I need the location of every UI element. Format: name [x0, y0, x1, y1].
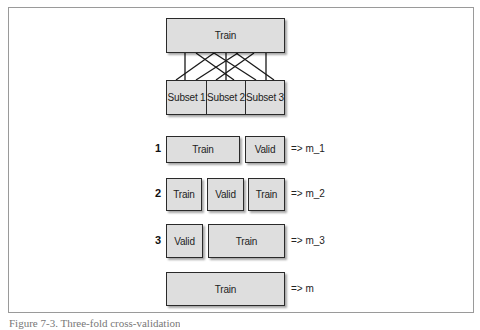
subset-3-label: Subset 3	[246, 92, 284, 103]
fold-1-number: 1	[155, 142, 161, 154]
figure-caption: Figure 7-3. Three-fold cross-validation	[9, 317, 180, 330]
fold-1-valid-box: Valid	[245, 136, 285, 163]
subset-2-box: Subset 2	[206, 80, 246, 115]
fold-2-number: 2	[155, 187, 161, 199]
fold-3-number: 3	[155, 234, 161, 246]
final-train-box: Train	[166, 272, 285, 306]
subset-1-label: Subset 1	[168, 92, 206, 103]
subset-2-label: Subset 2	[207, 92, 245, 103]
fold-3-train-label: Train	[236, 236, 257, 247]
fold-2-result: => m_2	[291, 188, 325, 199]
fold-2-valid-label: Valid	[215, 189, 236, 200]
final-train-label: Train	[215, 284, 236, 295]
subsets-group: Subset 1 Subset 2 Subset 3	[166, 80, 285, 115]
fold-2-train-label-b: Train	[256, 189, 277, 200]
full-train-label: Train	[215, 30, 236, 41]
full-train-box: Train	[166, 18, 285, 53]
fold-2-valid-box: Valid	[207, 178, 244, 211]
fold-3-result: => m_3	[291, 235, 325, 246]
fold-1-valid-label: Valid	[255, 144, 276, 155]
fold-3-valid-box: Valid	[166, 224, 203, 258]
subset-3-box: Subset 3	[245, 80, 285, 115]
fold-1-train-label: Train	[192, 144, 213, 155]
fold-2-train-box-b: Train	[248, 178, 285, 211]
fold-1-train-box: Train	[166, 136, 240, 163]
subset-1-box: Subset 1	[166, 80, 207, 115]
final-result: => m	[291, 283, 314, 294]
fold-3-valid-label: Valid	[174, 236, 195, 247]
fold-2-train-label-a: Train	[173, 189, 194, 200]
fold-3-train-box: Train	[208, 224, 285, 258]
fold-2-train-box-a: Train	[166, 178, 202, 211]
fold-1-result: => m_1	[291, 143, 325, 154]
